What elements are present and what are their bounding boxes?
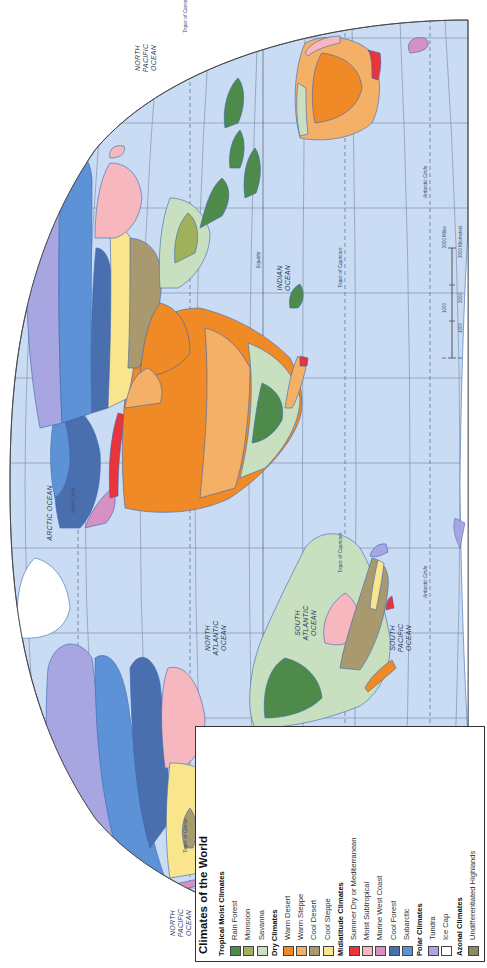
antarctic-circle-label: Antarctic Circle bbox=[423, 165, 428, 199]
svg-text:2000: 2000 bbox=[458, 292, 463, 303]
ocean-label: NORTHPACIFICOCEAN bbox=[169, 908, 192, 937]
svg-text:0: 0 bbox=[458, 356, 463, 359]
equator-label: Equator bbox=[256, 746, 261, 763]
svg-text:1000: 1000 bbox=[458, 322, 463, 333]
ocean-label: NORTHPACIFICOCEAN bbox=[134, 43, 157, 72]
arctic-circle-label: Arctic Circle bbox=[71, 487, 76, 514]
svg-text:2000 Miles: 2000 Miles bbox=[442, 225, 447, 248]
ocean-label: SOUTHPACIFICOCEAN bbox=[389, 623, 412, 652]
tropic-of-capricorn-label: Tropic of Capricorn bbox=[338, 532, 343, 573]
svg-text:3000 Kilometers: 3000 Kilometers bbox=[458, 225, 463, 258]
tropic-of-cancer-label: Tropic of Cancer bbox=[183, 817, 188, 853]
ocean-label: INDIANOCEAN bbox=[276, 264, 291, 291]
svg-text:1000: 1000 bbox=[442, 302, 447, 313]
world-climate-map: NORTHPACIFICOCEAN NORTHATLANTICOCEAN SOU… bbox=[0, 0, 487, 968]
climate-map-figure: NORTHPACIFICOCEAN NORTHATLANTICOCEAN SOU… bbox=[0, 0, 487, 968]
ocean-label: ARCTIC OCEAN bbox=[46, 485, 53, 542]
rotated-map-frame: NORTHPACIFICOCEAN NORTHATLANTICOCEAN SOU… bbox=[0, 0, 487, 968]
svg-text:0: 0 bbox=[442, 356, 447, 359]
tropic-of-capricorn-label: Tropic of Capricorn bbox=[338, 247, 343, 288]
equator-label: Equator bbox=[256, 251, 261, 268]
antarctic-circle-label: Antarctic Circle bbox=[423, 565, 428, 599]
tropic-of-cancer-label: Tropic of Cancer bbox=[183, 0, 188, 33]
